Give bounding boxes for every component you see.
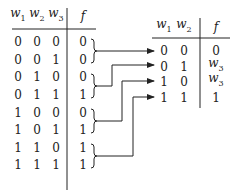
right-cell-f: w3: [208, 71, 223, 90]
left-cell: 1: [52, 88, 60, 102]
right-cell: 0: [180, 44, 188, 58]
brace-group: [91, 39, 97, 168]
left-cell: 1: [52, 53, 60, 67]
left-header-w3: w3: [48, 6, 63, 25]
right-cell: 0: [160, 60, 168, 74]
left-cell: 0: [33, 123, 41, 137]
left-header-w2: w2: [29, 6, 44, 25]
left-cell: 0: [79, 35, 87, 49]
left-cell: 1: [79, 88, 87, 102]
left-cell: 0: [14, 35, 22, 49]
left-cell: 0: [14, 70, 22, 84]
left-cell: 0: [33, 106, 41, 120]
left-cell: 1: [52, 123, 60, 137]
brace-1: [91, 39, 97, 63]
arrow-3: [97, 81, 154, 121]
left-cell: 0: [52, 70, 60, 84]
left-cell: 0: [33, 35, 41, 49]
connector-arrows: [97, 51, 154, 156]
left-cell: 0: [79, 53, 87, 67]
left-cell: 1: [14, 123, 22, 137]
left-cell: 0: [52, 106, 60, 120]
left-cell: 0: [79, 106, 87, 120]
left-cell: 1: [79, 141, 87, 155]
brace-2: [91, 74, 97, 98]
right-header-f: f: [214, 20, 218, 34]
left-cell: 1: [52, 158, 60, 172]
left-cell: 1: [33, 70, 41, 84]
left-cell: 1: [33, 88, 41, 102]
left-cell: 0: [52, 141, 60, 155]
arrow-2: [97, 65, 154, 86]
left-cell: 1: [33, 158, 41, 172]
left-cell: 1: [14, 106, 22, 120]
left-cell: 0: [79, 70, 87, 84]
left-header-f: f: [81, 9, 85, 23]
right-cell: 1: [160, 75, 168, 89]
left-cell: 0: [33, 53, 41, 67]
left-cell: 1: [33, 141, 41, 155]
right-cell: 1: [160, 91, 168, 105]
brace-3: [91, 109, 97, 133]
left-cell: 0: [14, 88, 22, 102]
right-cell: 1: [180, 91, 188, 105]
left-header-w1: w1: [10, 6, 25, 25]
left-cell: 1: [14, 141, 22, 155]
right-header-w2: w2: [176, 17, 191, 36]
right-cell: 1: [180, 60, 188, 74]
left-cell: 1: [79, 123, 87, 137]
right-cell: 0: [180, 75, 188, 89]
left-cell: 0: [14, 53, 22, 67]
left-cell: 0: [52, 35, 60, 49]
right-cell-f: 1: [212, 91, 220, 105]
left-cell: 1: [79, 158, 87, 172]
left-cell: 1: [14, 158, 22, 172]
right-header-w1: w1: [156, 17, 171, 36]
right-cell: 0: [160, 44, 168, 58]
brace-4: [91, 144, 97, 168]
arrow-4: [97, 97, 154, 156]
